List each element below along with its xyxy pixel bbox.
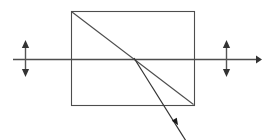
left-polarization-arrow-down-icon: [22, 69, 29, 77]
diagonal-ray-line: [72, 12, 194, 105]
diagram-canvas: [0, 0, 272, 140]
optics-ray-diagram: [0, 0, 272, 140]
refracted-ray-line: [134, 58, 186, 140]
right-polarization-arrow-down-icon: [223, 69, 230, 77]
right-polarization-arrow-up-icon: [223, 40, 230, 48]
left-polarization-arrow-up-icon: [22, 40, 29, 48]
optical-axis-arrowhead-icon: [256, 56, 262, 64]
